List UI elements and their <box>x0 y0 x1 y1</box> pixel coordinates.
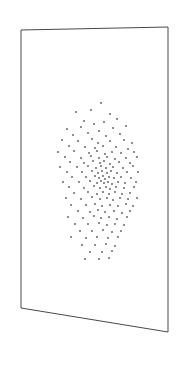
scatter-point <box>120 230 122 232</box>
scatter-point <box>89 180 91 182</box>
scatter-point <box>70 236 72 238</box>
scatter-point <box>116 172 118 174</box>
scatter-point <box>129 192 131 194</box>
scatter-point <box>103 182 105 184</box>
scatter-point <box>100 217 102 219</box>
scatter-point <box>120 176 122 178</box>
scatter-point <box>132 205 134 207</box>
scatter-point <box>73 192 75 194</box>
scatter-point <box>96 182 98 184</box>
scatter-point <box>107 237 109 239</box>
scatter-point <box>127 198 129 200</box>
scatter-point <box>136 156 138 158</box>
scatter-point <box>85 237 87 239</box>
scatter-point <box>74 223 76 225</box>
scatter-point <box>115 146 117 148</box>
scatter-point <box>94 203 96 205</box>
scatter-point <box>100 180 102 182</box>
scatter-point <box>79 230 81 232</box>
scatter-point <box>124 182 126 184</box>
scatter-point <box>100 102 102 104</box>
scatter-point <box>123 224 125 226</box>
scatter-point <box>106 197 108 199</box>
scatter-point <box>77 210 79 212</box>
scatter-point <box>114 158 116 160</box>
plane-surface <box>21 27 168 332</box>
scatter-point <box>98 258 100 260</box>
scatter-point <box>129 162 131 164</box>
scatter-point <box>70 204 72 206</box>
scatter-point <box>81 171 83 173</box>
scatter-point <box>114 223 116 225</box>
scatter-point <box>109 204 111 206</box>
scatter-point <box>91 196 93 198</box>
scatter-point <box>96 236 98 238</box>
scatter-point <box>109 188 111 190</box>
scatter-point <box>99 187 101 189</box>
scatter-point <box>87 165 89 167</box>
scatter-point <box>129 210 131 212</box>
scatter-point <box>77 140 79 142</box>
scatter-point <box>117 205 119 207</box>
scatter-point <box>64 156 66 158</box>
scatter-point <box>101 170 103 172</box>
scatter-point <box>108 176 110 178</box>
scatter-point <box>92 160 94 162</box>
scatter-point <box>102 191 104 193</box>
scatter-point <box>61 139 63 141</box>
scatter-point <box>84 146 86 148</box>
scatter-point <box>105 135 107 137</box>
scatter-point <box>85 204 87 206</box>
scatter-point <box>114 245 116 247</box>
scatter-point <box>94 175 96 177</box>
scatter-point <box>123 139 125 141</box>
scatter-point <box>132 165 134 167</box>
scatter-point <box>88 152 90 154</box>
scatter-point <box>109 163 111 165</box>
scatter-point <box>104 211 106 213</box>
scatter-point <box>126 216 128 218</box>
scatter-point <box>83 187 85 189</box>
scatter-point <box>83 162 85 164</box>
scatter-point <box>101 205 103 207</box>
scatter-point <box>65 197 67 199</box>
scatter-point <box>122 167 124 169</box>
scatter-point <box>80 157 82 159</box>
scatter-point <box>103 121 105 123</box>
perspective-plane-scatter-svg <box>0 0 182 369</box>
scatter-point <box>108 257 110 259</box>
scatter-point <box>137 171 139 173</box>
scatter-point <box>84 258 86 260</box>
scatter-point <box>114 191 116 193</box>
scatter-point <box>106 224 108 226</box>
scatter-point <box>123 187 125 189</box>
scatter-point <box>71 176 73 178</box>
scatter-point <box>96 193 98 195</box>
scatter-point <box>104 153 106 155</box>
scatter-point <box>109 140 111 142</box>
scatter-point <box>87 191 89 193</box>
scatter-point <box>85 176 87 178</box>
scatter-point <box>105 186 107 188</box>
diagram-canvas <box>0 0 182 369</box>
scatter-point <box>93 185 95 187</box>
scatter-point <box>113 210 115 212</box>
scatter-point <box>111 183 113 185</box>
scatter-point <box>112 166 114 168</box>
scatter-point <box>112 127 114 129</box>
scatter-point <box>81 244 83 246</box>
scatter-point <box>97 142 99 144</box>
scatter-point <box>135 181 137 183</box>
scatter-point <box>118 161 120 163</box>
scatter-point <box>98 130 100 132</box>
scatter-point <box>91 170 93 172</box>
scatter-point <box>78 181 80 183</box>
scatter-point <box>93 123 95 125</box>
scatter-point <box>73 150 75 152</box>
scatter-point <box>130 177 132 179</box>
scatter-point <box>117 181 119 183</box>
scatter-point <box>112 199 114 201</box>
scatter-point <box>87 132 89 134</box>
scatter-point <box>89 251 91 253</box>
scatter-point <box>125 203 127 205</box>
